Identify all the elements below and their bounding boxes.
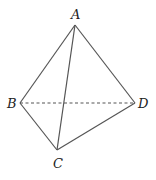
- tetrahedron-diagram: A B C D: [0, 0, 156, 180]
- edge-bc: [20, 103, 57, 150]
- vertex-label-c: C: [53, 156, 63, 171]
- edge-ac: [57, 25, 75, 150]
- edge-cd: [57, 103, 135, 150]
- diagram-canvas: A B C D: [0, 0, 156, 180]
- vertex-label-b: B: [6, 96, 17, 111]
- edge-ab: [20, 25, 75, 103]
- vertex-label-d: D: [137, 96, 149, 111]
- edge-ad: [75, 25, 135, 103]
- vertex-label-a: A: [70, 7, 80, 22]
